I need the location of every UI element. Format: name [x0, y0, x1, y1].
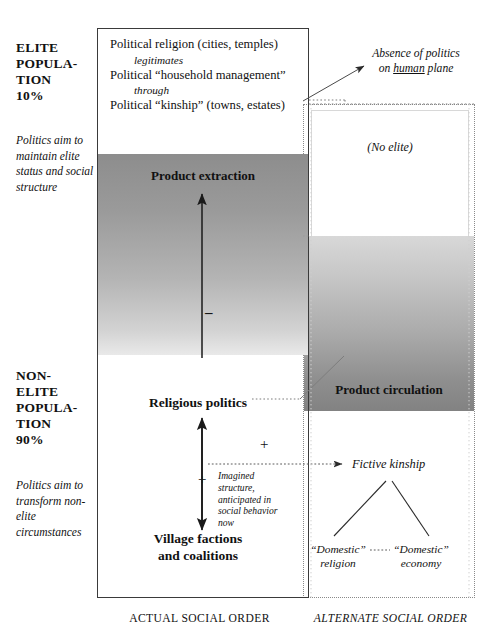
nonelite-heading-line-3: POPULA-	[16, 400, 96, 416]
elite-line-3: Political “kinship” (towns, estates)	[110, 98, 285, 112]
product-extraction-label: Product extraction	[98, 168, 308, 184]
product-circulation-label: Product circulation	[304, 382, 474, 398]
elite-politics-note: Politics aim to maintain elite status an…	[16, 133, 98, 195]
plus-sign-upper: +	[260, 437, 268, 452]
nonelite-heading-line-5: 90%	[16, 432, 96, 448]
domestic-religion-label: “Domestic” religion	[303, 542, 373, 570]
elite-statements: Political religion (cities, temples) leg…	[110, 36, 306, 114]
religious-politics-label: Religious politics	[98, 395, 298, 411]
absence-of-politics-note: Absence of politics on human plane	[356, 46, 476, 76]
domestic-religion-line-1: “Domestic”	[303, 542, 373, 556]
minus-sign-extraction: –	[205, 305, 213, 320]
nonelite-heading-line-4: TION	[16, 416, 96, 432]
elite-line-2: Political “household management”	[110, 68, 286, 82]
absence-underlined-human: human	[393, 62, 425, 75]
diagram-canvas: ELITE POPULA- TION 10% Politics aim to m…	[0, 0, 478, 642]
no-elite-region	[311, 110, 469, 237]
domestic-economy-line-1: “Domestic”	[385, 542, 457, 556]
village-line-1: Village factions	[98, 530, 298, 547]
imagined-structure-note: Imagined structure, anticipated in socia…	[218, 470, 290, 529]
caption-actual-social-order: ACTUAL SOCIAL ORDER	[97, 612, 302, 625]
domestic-economy-label: “Domestic” economy	[385, 542, 457, 570]
fictive-kinship-label: Fictive kinship	[352, 457, 462, 472]
elite-heading-line-3: TION	[16, 72, 96, 88]
nonelite-population-heading: NON- ELITE POPULA- TION 90%	[16, 368, 96, 448]
absence-line-1: Absence of politics	[372, 47, 460, 60]
arrow-to-absence-note	[303, 66, 364, 101]
absence-line-2-pre: on	[379, 62, 394, 75]
elite-connector-legitimates: legitimates	[110, 53, 306, 67]
elite-heading-line-4: 10%	[16, 88, 96, 104]
elite-population-heading: ELITE POPULA- TION 10%	[16, 40, 96, 104]
plus-sign-lower: +	[198, 472, 206, 487]
nonelite-politics-note: Politics aim to transform non-elite circ…	[16, 478, 98, 540]
village-factions-label: Village factions and coalitions	[98, 530, 298, 564]
nonelite-heading-line-1: NON-	[16, 368, 96, 384]
elite-heading-line-2: POPULA-	[16, 56, 96, 72]
domestic-economy-line-2: economy	[385, 556, 457, 570]
absence-line-2-post: plane	[425, 62, 454, 75]
nonelite-heading-line-2: ELITE	[16, 384, 96, 400]
village-line-2: and coalitions	[98, 547, 298, 564]
elite-line-1: Political religion (cities, temples)	[110, 37, 278, 51]
caption-alternate-social-order: ALTERNATE SOCIAL ORDER	[303, 612, 478, 625]
domestic-religion-line-2: religion	[303, 556, 373, 570]
elite-heading-line-1: ELITE	[16, 40, 96, 56]
elite-connector-through: through	[110, 83, 306, 97]
no-elite-label: (No elite)	[311, 140, 469, 155]
